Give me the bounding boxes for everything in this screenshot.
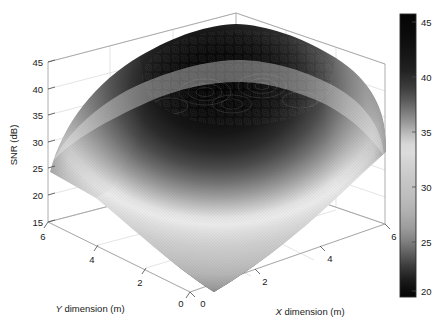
z-tick-45: 45 [32, 57, 43, 68]
x-tick-0: 0 [200, 298, 205, 309]
x-tick-2: 2 [262, 276, 267, 287]
z-tick-20: 20 [32, 190, 43, 201]
z-axis-title: SNR (dB) [8, 125, 19, 166]
z-tick-40: 40 [32, 84, 43, 95]
colorbar-tick-25: 25 [421, 237, 432, 248]
z-tick-15: 15 [32, 217, 43, 228]
z-tickmarks [48, 60, 55, 222]
surface-mesh [50, 24, 386, 300]
figure-surface-plot: 45 40 35 30 25 20 15 SNR (dB) 6 4 2 0 Y … [0, 0, 441, 331]
z-tick-25: 25 [32, 163, 43, 174]
y-tick-6: 6 [40, 231, 45, 242]
colorbar-tick-40: 40 [421, 72, 432, 83]
x-tick-6: 6 [391, 231, 396, 242]
y-tick-2: 2 [137, 277, 142, 288]
y-tick-4: 4 [89, 254, 94, 265]
y-tick-0: 0 [178, 298, 183, 309]
colorbar-tick-30: 30 [421, 182, 432, 193]
colorbar[interactable]: 45 40 35 30 25 20 [400, 14, 432, 297]
colorbar-gradient[interactable] [400, 14, 416, 297]
plot-canvas: 45 40 35 30 25 20 15 SNR (dB) 6 4 2 0 Y … [0, 0, 441, 331]
y-axis-title-rest: dimension (m) [62, 303, 125, 314]
z-tick-30: 30 [32, 137, 43, 148]
colorbar-tick-20: 20 [421, 286, 432, 297]
colorbar-tick-35: 35 [421, 127, 432, 138]
x-axis-title-rest: dimension (m) [282, 306, 345, 317]
x-axis-title: X dimension (m) [274, 306, 344, 317]
x-tick-4: 4 [327, 253, 332, 264]
colorbar-tick-45: 45 [421, 17, 432, 28]
y-axis-title: Y dimension (m) [55, 303, 124, 314]
z-tick-35: 35 [32, 110, 43, 121]
